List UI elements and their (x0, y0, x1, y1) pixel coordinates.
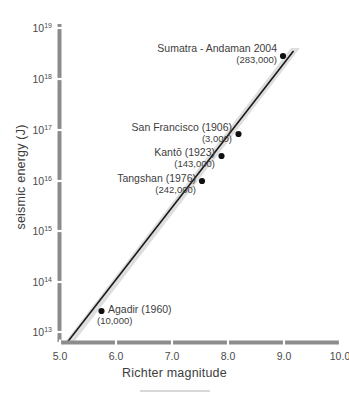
y-tick-label-1e14: 1014 (8, 277, 52, 288)
annotation-san-francisco: San Francisco (1906) (3,000) (132, 121, 232, 145)
x-tick-label-5: 5.0 (53, 351, 68, 362)
y-axis-title: seismic energy (J) (14, 77, 28, 277)
y-tick-label-1e19: 1019 (8, 23, 52, 34)
data-point-sumatra (280, 53, 286, 59)
annotation-agadir: Agadir (1960) (10,000) (108, 303, 172, 327)
annotation-tangshan: Tangshan (1976) (242,000) (117, 172, 196, 196)
annotation-san-francisco-name: San Francisco (1906) (132, 121, 232, 133)
x-tick-label-6: 6.0 (109, 351, 124, 362)
x-tick-label-9: 9.0 (277, 351, 292, 362)
annotation-agadir-name: Agadir (1960) (108, 303, 172, 315)
annotation-agadir-count: (10,000) (97, 315, 172, 326)
annotation-tangshan-name: Tangshan (1976) (117, 172, 196, 184)
data-point-san-francisco (235, 131, 241, 137)
x-tick-label-7: 7.0 (165, 351, 180, 362)
data-point-agadir (98, 308, 104, 314)
annotation-kanto-name: Kantō (1923) (154, 146, 215, 158)
x-tick-label-10: 10.0 (330, 351, 349, 362)
footer-divider (140, 390, 210, 392)
annotation-kanto: Kantō (1923) (143,000) (154, 146, 215, 170)
annotation-sumatra-count: (283,000) (157, 54, 277, 65)
trend-line (68, 51, 294, 342)
y-tick-label-1e13: 1013 (8, 327, 52, 338)
annotation-sumatra: Sumatra - Andaman 2004 (283,000) (157, 42, 277, 66)
x-axis-title: Richter magnitude (0, 366, 349, 380)
data-point-tangshan (199, 178, 205, 184)
annotation-san-francisco-count: (3,000) (132, 133, 232, 144)
annotation-sumatra-name: Sumatra - Andaman 2004 (157, 42, 277, 54)
data-point-kanto (218, 153, 224, 159)
annotation-kanto-count: (143,000) (154, 158, 215, 169)
annotation-tangshan-count: (242,000) (117, 184, 196, 195)
seismic-energy-chart: 1019 1018 1017 1016 1015 1014 1013 5.0 6… (0, 0, 349, 401)
x-tick-label-8: 8.0 (221, 351, 236, 362)
